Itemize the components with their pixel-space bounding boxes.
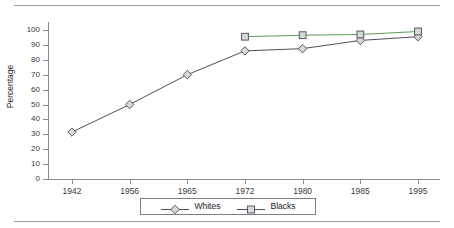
bottom-rule-divider — [14, 221, 440, 222]
y-tick-mark — [43, 90, 48, 91]
marker-square-blacks — [415, 28, 422, 35]
marker-square-blacks — [299, 32, 306, 39]
y-tick-label: 80 — [16, 56, 40, 64]
line-chart-figure: Percentage 0102030405060708090100 194219… — [0, 8, 454, 216]
legend-item-blacks[interactable]: Blacks — [236, 201, 295, 212]
series-line-whites — [72, 37, 418, 132]
y-tick-mark — [43, 60, 48, 61]
x-tick-mark — [303, 180, 304, 184]
y-tick-mark — [43, 134, 48, 135]
y-tick-label: 50 — [16, 101, 40, 109]
legend-entries: WhitesBlacks — [141, 199, 315, 214]
y-tick-label: 90 — [16, 41, 40, 49]
legend-label: Whites — [194, 202, 220, 211]
chart-page: Percentage 0102030405060708090100 194219… — [0, 0, 454, 228]
y-tick-label: 60 — [16, 86, 40, 94]
marker-diamond-whites — [298, 44, 306, 52]
x-tick-label: 1995 — [398, 186, 438, 196]
y-tick-label: 70 — [16, 71, 40, 79]
x-axis-line — [48, 179, 440, 180]
y-tick-label: 40 — [16, 115, 40, 123]
series-line-blacks — [245, 31, 418, 36]
y-tick-label: 100 — [16, 26, 40, 34]
square-marker-icon — [236, 201, 266, 212]
y-tick-label: 10 — [16, 160, 40, 168]
marker-diamond-whites — [414, 33, 422, 41]
y-axis-title: Percentage — [6, 57, 15, 117]
y-tick-mark — [43, 119, 48, 120]
marker-square-blacks — [242, 33, 249, 40]
marker-diamond-whites — [68, 128, 76, 136]
legend-item-whites[interactable]: Whites — [160, 201, 220, 212]
y-tick-mark — [43, 75, 48, 76]
x-tick-label: 1956 — [110, 186, 150, 196]
x-tick-label: 1965 — [167, 186, 207, 196]
x-tick-mark — [418, 180, 419, 184]
y-tick-mark — [43, 30, 48, 31]
x-tick-label: 1942 — [52, 186, 92, 196]
y-tick-label: 30 — [16, 130, 40, 138]
x-tick-label: 1985 — [340, 186, 380, 196]
x-tick-mark — [72, 180, 73, 184]
top-rule-divider — [14, 5, 440, 6]
marker-diamond-whites — [125, 100, 133, 108]
x-tick-mark — [245, 180, 246, 184]
marker-diamond-whites — [356, 36, 364, 44]
x-tick-label: 1980 — [283, 186, 323, 196]
y-tick-label: 0 — [16, 175, 40, 183]
y-tick-label: 20 — [16, 145, 40, 153]
y-tick-mark — [43, 164, 48, 165]
legend-label: Blacks — [270, 202, 295, 211]
marker-square-blacks — [357, 31, 364, 38]
diamond-marker-icon — [160, 201, 190, 212]
chart-legend: WhitesBlacks — [140, 198, 316, 215]
y-tick-mark — [43, 105, 48, 106]
x-tick-label: 1972 — [225, 186, 265, 196]
marker-diamond-whites — [183, 71, 191, 79]
y-tick-mark — [43, 149, 48, 150]
y-tick-mark — [43, 179, 48, 180]
x-tick-mark — [187, 180, 188, 184]
y-axis-line — [48, 22, 49, 180]
series-plot — [0, 8, 454, 216]
x-tick-mark — [360, 180, 361, 184]
x-tick-mark — [130, 180, 131, 184]
marker-diamond-whites — [241, 47, 249, 55]
y-tick-mark — [43, 45, 48, 46]
